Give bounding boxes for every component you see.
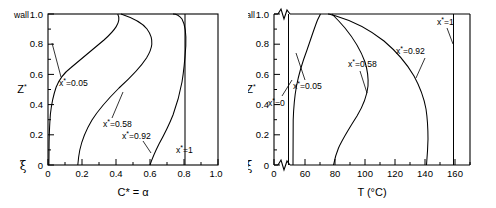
right-leader-x0 xyxy=(282,80,292,96)
left-xaxis-label: C* = α xyxy=(117,186,149,198)
left-ytick-02: 0.2 xyxy=(30,129,43,140)
right-yticks xyxy=(274,14,280,165)
left-xtick-04: 0.4 xyxy=(109,168,122,179)
left-plot-svg: 0 0.2 0.4 0.6 0.8 1.0 0 0.2 0.4 0.6 0.8 … xyxy=(0,0,248,208)
left-label-x005: x*=0.05 xyxy=(59,77,88,88)
left-leader-x058 xyxy=(112,92,123,118)
right-label-x092: x*=0.92 xyxy=(396,45,425,56)
left-xtick-0: 0 xyxy=(45,168,50,179)
left-axis-frame xyxy=(48,14,218,165)
right-xaxis-label: T (°C) xyxy=(357,186,386,198)
left-leader-x092 xyxy=(143,141,151,153)
right-ytick-10: 1.0 xyxy=(256,9,269,20)
left-ytick-04: 0.4 xyxy=(30,99,43,110)
right-wall-label: wall xyxy=(248,10,255,20)
right-label-x058: x*=0.58 xyxy=(348,58,377,69)
left-ytick-08: 0.8 xyxy=(30,38,43,49)
right-leader-x058 xyxy=(360,71,367,93)
left-xtick-02: 0.2 xyxy=(75,168,88,179)
right-xtick-140: 140 xyxy=(417,168,433,179)
right-leader-x1 xyxy=(447,28,453,44)
right-curve-x092 xyxy=(328,14,428,165)
right-xticks xyxy=(274,159,470,165)
right-xtick-100: 100 xyxy=(357,168,373,179)
right-xtick-80: 80 xyxy=(330,168,341,179)
right-label-x005: x*=0.05 xyxy=(293,80,322,91)
chart-panel-right: 0 60 80 100 120 140 160 0 0.2 0.4 0.6 0.… xyxy=(248,0,496,208)
right-xtick-0: 0 xyxy=(271,168,276,179)
right-yaxis-label: Z* xyxy=(248,83,256,95)
right-xtick-60: 60 xyxy=(300,168,311,179)
left-ytick-06: 0.6 xyxy=(30,69,43,80)
left-yaxis-label: Z* xyxy=(17,83,27,95)
right-ytick-02: 0.2 xyxy=(256,129,269,140)
right-ytick-0: 0 xyxy=(264,160,269,171)
right-xtick-160: 160 xyxy=(447,168,463,179)
left-xtick-10: 1.0 xyxy=(209,168,222,179)
left-label-x1: x*=1 xyxy=(176,144,193,155)
left-xtick-08: 0.8 xyxy=(177,168,190,179)
left-curve-x058 xyxy=(78,14,152,165)
left-label-x058: x*=0.58 xyxy=(103,118,132,129)
right-xi-label: ξ xyxy=(248,159,253,173)
left-xi-label: ξ xyxy=(20,159,27,173)
left-curve-x092 xyxy=(150,14,186,165)
left-wall-label: wall xyxy=(13,10,29,20)
right-xtick-120: 120 xyxy=(387,168,403,179)
right-ytick-08: 0.8 xyxy=(256,38,269,49)
right-label-x0: x*=0 xyxy=(268,97,285,108)
left-ytick-10: 1.0 xyxy=(30,9,43,20)
chart-panel-left: 0 0.2 0.4 0.6 0.8 1.0 0 0.2 0.4 0.6 0.8 … xyxy=(0,0,248,208)
right-plot-svg: 0 60 80 100 120 140 160 0 0.2 0.4 0.6 0.… xyxy=(248,0,496,208)
right-leader-x005 xyxy=(296,53,305,80)
left-xtick-06: 0.6 xyxy=(143,168,156,179)
left-curve-x005 xyxy=(49,14,119,165)
right-label-x1: x*=1 xyxy=(437,16,454,27)
left-leader-x005 xyxy=(52,43,61,77)
figure-container: 0 0.2 0.4 0.6 0.8 1.0 0 0.2 0.4 0.6 0.8 … xyxy=(0,0,496,208)
right-leader-x092 xyxy=(416,58,425,78)
left-xticks xyxy=(48,159,218,165)
left-ytick-0: 0 xyxy=(38,160,43,171)
left-label-x092: x*=0.92 xyxy=(122,130,151,141)
right-curve-x058 xyxy=(332,14,368,165)
right-ytick-06: 0.6 xyxy=(256,69,269,80)
